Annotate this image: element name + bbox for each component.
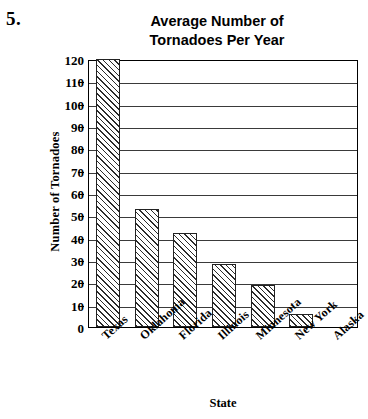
y-axis-tick-labels: 1201101009080706050403020100 <box>44 60 84 328</box>
bar-series <box>89 61 357 327</box>
y-axis-tick-label: 120 <box>65 54 85 67</box>
y-axis-tick-mark <box>78 261 84 262</box>
y-axis-tick-mark <box>78 127 84 128</box>
y-axis-tick-mark <box>78 149 84 150</box>
y-axis-tick-mark <box>78 283 84 284</box>
y-axis-tick-mark <box>78 172 84 173</box>
x-axis-tick-labels: TexasOklahomaFloridaIllinoisMinnesotaNew… <box>88 328 358 390</box>
bar-texas <box>96 59 120 327</box>
y-axis-tick-mark <box>78 194 84 195</box>
bar-oklahoma <box>135 209 159 327</box>
plot-area <box>88 60 358 328</box>
chart-title-line-2: Tornadoes Per Year <box>78 31 356 50</box>
y-axis-tick-mark <box>78 105 84 106</box>
y-axis-tick-mark <box>78 216 84 217</box>
problem-number: 5. <box>6 8 21 30</box>
x-axis-title: State <box>88 396 358 411</box>
chart-title-line-1: Average Number of <box>78 12 356 31</box>
y-axis-tick-label: 0 <box>78 322 85 335</box>
y-axis-tick-mark <box>78 239 84 240</box>
chart-title: Average Number of Tornadoes Per Year <box>78 12 356 50</box>
y-axis-tick-mark <box>78 306 84 307</box>
y-axis-tick-mark <box>78 82 84 83</box>
